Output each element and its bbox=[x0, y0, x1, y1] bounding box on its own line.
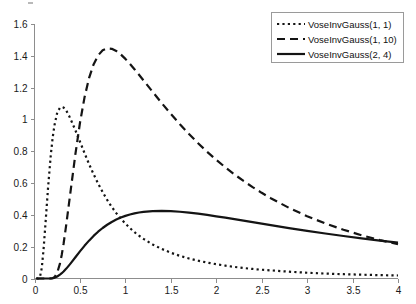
x-tick-label: 1 bbox=[123, 285, 129, 296]
inverse-gaussian-pdf-chart: 00.20.40.60.811.21.41.6 00.511.522.533.5… bbox=[0, 0, 416, 304]
legend-label-1: VoseInvGauss(1, 10) bbox=[308, 34, 397, 45]
chart-container: 00.20.40.60.811.21.41.6 00.511.522.533.5… bbox=[0, 0, 416, 304]
legend-label-0: VoseInvGauss(1, 1) bbox=[308, 19, 391, 30]
y-tick-label: 0.8 bbox=[14, 146, 28, 157]
x-tick-label: 2.5 bbox=[256, 285, 270, 296]
y-tick-label: 0.4 bbox=[14, 210, 28, 221]
x-tick-label: 3.5 bbox=[347, 285, 361, 296]
chart-legend: VoseInvGauss(1, 1)VoseInvGauss(1, 10)Vos… bbox=[272, 13, 404, 63]
legend-label-2: VoseInvGauss(2, 4) bbox=[308, 49, 391, 60]
y-tick-label: 1 bbox=[22, 114, 28, 125]
y-axis-tick-labels: 00.20.40.60.811.21.41.6 bbox=[14, 19, 28, 285]
y-tick-label: 1.2 bbox=[14, 83, 28, 94]
y-tick-label: 0.6 bbox=[14, 178, 28, 189]
y-tick-label: 0 bbox=[22, 274, 28, 285]
y-tick-label: 0.2 bbox=[14, 242, 28, 253]
x-tick-label: 1.5 bbox=[165, 285, 179, 296]
x-tick-label: 4 bbox=[396, 285, 402, 296]
x-tick-label: 2 bbox=[214, 285, 220, 296]
scan-artifact bbox=[28, 2, 33, 4]
y-tick-label: 1.4 bbox=[14, 51, 28, 62]
x-tick-label: 0.5 bbox=[74, 285, 88, 296]
x-tick-label: 3 bbox=[305, 285, 311, 296]
x-tick-label: 0 bbox=[33, 285, 39, 296]
y-tick-label: 1.6 bbox=[14, 19, 28, 30]
